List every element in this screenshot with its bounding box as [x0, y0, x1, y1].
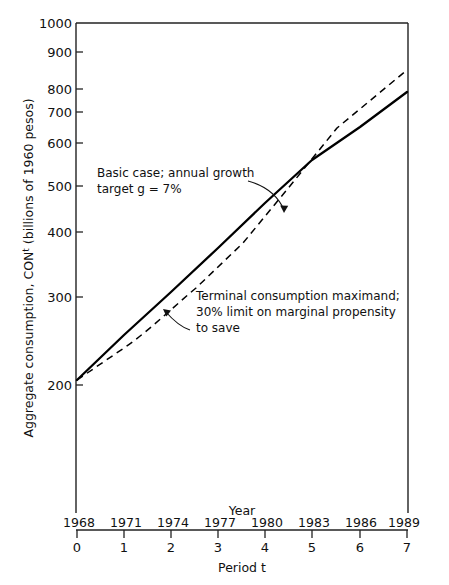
y-axis-title: Aggregate consumption, CONt (billions of…: [21, 98, 36, 437]
series-basic-case-line: [77, 92, 407, 380]
y-tick-label-1000: 1000: [39, 16, 72, 31]
x-tick-label-year-1983: 1983: [298, 515, 330, 530]
y-axis-tick-labels: 1000 900 800 700 600 500 400 300 200: [39, 16, 72, 393]
y-tick-label-200: 200: [47, 378, 72, 393]
x-tick-label-year-1980: 1980: [251, 515, 283, 530]
x-tick-label-period-5: 5: [308, 540, 316, 555]
annotation-basic-case: Basic case; annual growth target g = 7%: [97, 166, 288, 213]
annotation-terminal-line2: 30% limit on marginal propensity: [196, 305, 396, 319]
x-tick-label-year-1977: 1977: [204, 515, 236, 530]
x-axis-title-period: Period t: [218, 560, 266, 575]
y-tick-label-500: 500: [47, 179, 72, 194]
x-tick-label-period-4: 4: [261, 540, 269, 555]
x-tick-label-period-7: 7: [403, 540, 411, 555]
x-tick-label-year-1989: 1989: [388, 515, 420, 530]
x-tick-label-period-6: 6: [356, 540, 364, 555]
annotation-terminal-leader: [165, 311, 190, 330]
x-tick-label-year-1974: 1974: [157, 515, 189, 530]
annotation-basic-case-line1: Basic case; annual growth: [97, 166, 254, 180]
x-axis-period-group: 0 1 2 3 4 5 6 7 Period t: [73, 530, 411, 575]
annotation-terminal-line1: Terminal consumption maximand;: [195, 289, 400, 303]
y-axis-title-main: Aggregate consumption, CON: [21, 252, 36, 438]
annotation-basic-case-arrowhead: [280, 205, 288, 213]
annotation-basic-case-leader: [248, 181, 284, 210]
x-axis-year-group: Year 1968 1971 1974 1977 1980 1983 1986 …: [63, 503, 420, 530]
y-axis-title-tail: (billions of 1960 pesos): [21, 98, 36, 248]
y-axis-title-group: Aggregate consumption, CONt (billions of…: [21, 98, 36, 437]
x-tick-label-year-1986: 1986: [345, 515, 377, 530]
x-tick-label-year-1971: 1971: [110, 515, 142, 530]
x-tick-label-period-2: 2: [167, 540, 175, 555]
y-tick-label-600: 600: [47, 136, 72, 151]
chart-svg: 1000 900 800 700 600 500 400 300 200 Agg…: [0, 0, 449, 585]
annotation-terminal-consumption: Terminal consumption maximand; 30% limit…: [163, 289, 400, 335]
data-series-group: [77, 70, 407, 380]
x-tick-label-year-1968: 1968: [63, 515, 95, 530]
y-tick-label-400: 400: [47, 225, 72, 240]
annotation-terminal-line3: to save: [196, 321, 240, 335]
y-tick-label-900: 900: [47, 45, 72, 60]
x-tick-label-period-0: 0: [73, 540, 81, 555]
y-axis-ticks: [76, 52, 83, 385]
annotation-basic-case-line2: target g = 7%: [97, 182, 182, 196]
y-tick-label-800: 800: [47, 82, 72, 97]
x-tick-label-period-1: 1: [120, 540, 128, 555]
figure-container: 1000 900 800 700 600 500 400 300 200 Agg…: [0, 0, 449, 585]
y-tick-label-300: 300: [47, 290, 72, 305]
plot-frame: [76, 23, 408, 513]
y-tick-label-700: 700: [47, 105, 72, 120]
x-tick-label-period-3: 3: [214, 540, 222, 555]
